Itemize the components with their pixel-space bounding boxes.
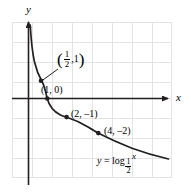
paren-close: ) <box>79 50 85 69</box>
fraction-base-one-half: 12 <box>125 158 131 175</box>
point-label-one-zero: (1, 0) <box>41 85 63 95</box>
equation-log-base: 12 <box>125 159 132 176</box>
point-marker-2-neg1 <box>64 115 69 120</box>
point-marker-1-0 <box>45 96 50 101</box>
point-marker-4-neg2 <box>96 131 101 136</box>
paren-open: ( <box>57 50 63 69</box>
x-axis-label: x <box>176 92 181 103</box>
plot-canvas <box>0 0 191 195</box>
equation-equals: = <box>104 155 110 166</box>
y-axis-label: y <box>26 4 31 15</box>
equation-lhs: y <box>97 155 101 166</box>
curve-equation-label: y = log12x <box>97 153 136 174</box>
point-label-two-negone: (2, –1) <box>71 109 98 119</box>
point-label-half-one: (12,1) <box>57 50 84 70</box>
leader-line-point-half <box>42 69 59 81</box>
fraction-one-half: 12 <box>64 50 71 70</box>
log-function-graph-figure: y x (12,1) (1, 0) (2, –1) (4, –2) y = lo… <box>0 0 191 195</box>
y-value: 1 <box>74 53 79 64</box>
point-marker-half-1 <box>39 79 44 84</box>
point-label-four-negtwo: (4, –2) <box>104 126 131 136</box>
grid-lines <box>12 22 172 178</box>
equation-argument: x <box>132 151 136 161</box>
equation-log-function: log <box>112 155 125 166</box>
